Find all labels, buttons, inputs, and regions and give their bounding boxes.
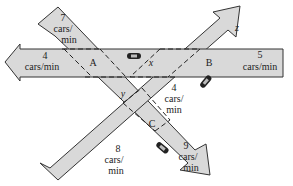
flow-in-a-top-value: 7 bbox=[61, 12, 66, 23]
variable-y-label: y bbox=[120, 88, 126, 99]
variable-x-label: x bbox=[148, 57, 154, 68]
car-icon bbox=[127, 53, 141, 59]
flow-in-c-bottom-unit: min bbox=[108, 165, 124, 176]
flow-out-a-left-unit: cars/min bbox=[25, 61, 59, 72]
flow-b-to-c-value: 4 bbox=[172, 82, 177, 93]
flow-out-c-right-unit: cars/ bbox=[179, 151, 198, 162]
flow-out-c-right-value: 9 bbox=[184, 140, 189, 151]
traffic-flow-diagram: 7 cars/ min 4 cars/min 5 cars/min 4 cars… bbox=[0, 0, 293, 186]
intersection-b-label: B bbox=[206, 57, 213, 68]
flow-in-b-right-unit: cars/min bbox=[243, 61, 277, 72]
flow-in-b-right-value: 5 bbox=[258, 49, 263, 60]
variable-z-label: z bbox=[234, 22, 239, 33]
flow-out-a-left-value: 4 bbox=[43, 50, 48, 61]
flow-in-a-top-unit: min bbox=[61, 34, 77, 45]
intersection-a-label: A bbox=[89, 57, 97, 68]
flow-in-c-bottom-unit: cars/ bbox=[105, 154, 124, 165]
flow-out-c-right-unit: min bbox=[183, 162, 199, 173]
flow-b-to-c-unit: min bbox=[166, 104, 182, 115]
flow-in-c-bottom-value: 8 bbox=[116, 143, 121, 154]
flow-b-to-c-unit: cars/ bbox=[165, 93, 184, 104]
flow-in-a-top-unit: cars/ bbox=[54, 23, 73, 34]
intersection-c-label: C bbox=[149, 118, 156, 129]
